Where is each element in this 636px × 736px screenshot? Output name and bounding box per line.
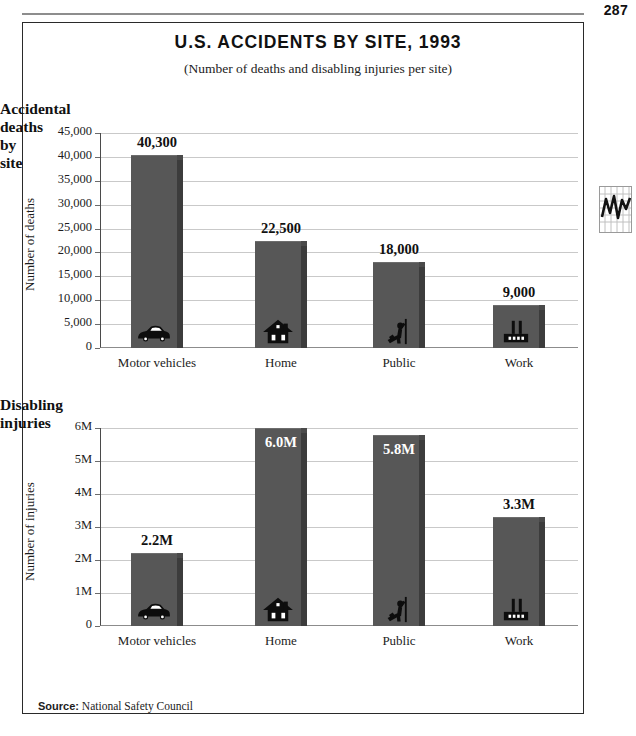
y-tick-mark bbox=[95, 428, 100, 429]
bar-top-bevel bbox=[177, 553, 183, 558]
y-axis-tick-label: 25,000 bbox=[34, 220, 92, 235]
y-axis-tick-label: 0 bbox=[34, 617, 92, 632]
y-axis-tick-label: 35,000 bbox=[34, 172, 92, 187]
bar-1-0 bbox=[131, 553, 183, 626]
figure-title: U.S. ACCIDENTS BY SITE, 1993 bbox=[0, 32, 636, 53]
bar-1-1 bbox=[255, 428, 307, 626]
y-axis-tick-label: 45,000 bbox=[34, 124, 92, 139]
bar-value-label-1-0: 2.2M bbox=[112, 532, 202, 549]
y-axis-tick-label: 30,000 bbox=[34, 196, 92, 211]
bar-value-label-0-0: 40,300 bbox=[112, 134, 202, 151]
bar-top-bevel bbox=[419, 435, 425, 440]
category-label-1-0: Motor vehicles bbox=[97, 633, 217, 649]
bar-side-shadow bbox=[419, 439, 425, 626]
gridline bbox=[101, 461, 578, 462]
bar-top-bevel bbox=[539, 517, 545, 522]
factory-icon bbox=[493, 318, 539, 346]
source-note: Source: National Safety Council bbox=[38, 700, 193, 712]
y-tick-mark bbox=[95, 205, 100, 206]
bar-1-3 bbox=[493, 517, 545, 626]
bar-value-label-0-2: 18,000 bbox=[354, 241, 444, 258]
bar-side-shadow bbox=[301, 432, 307, 626]
bar-top-bevel bbox=[539, 305, 545, 310]
bar-value-label-1-3: 3.3M bbox=[474, 496, 564, 513]
y-axis-tick-label: 6M bbox=[34, 419, 92, 434]
y-axis-tick-label: 5M bbox=[34, 452, 92, 467]
bar-top-bevel bbox=[177, 155, 183, 160]
factory-icon bbox=[493, 596, 539, 624]
category-label-0-0: Motor vehicles bbox=[97, 355, 217, 371]
bar-top-bevel bbox=[301, 428, 307, 433]
category-label-0-3: Work bbox=[459, 355, 579, 371]
category-label-0-2: Public bbox=[339, 355, 459, 371]
bar-side-shadow bbox=[539, 309, 545, 348]
bar-0-3 bbox=[493, 305, 545, 348]
y-tick-mark bbox=[95, 626, 100, 627]
bar-side-shadow bbox=[301, 245, 307, 349]
page-number: 287 bbox=[604, 2, 628, 18]
page-header-rule bbox=[22, 13, 584, 15]
y-axis-tick-label: 1M bbox=[34, 584, 92, 599]
y-tick-mark bbox=[95, 252, 100, 253]
bar-value-label-1-1: 6.0M bbox=[236, 434, 326, 451]
y-tick-mark bbox=[95, 300, 100, 301]
y-axis-tick-label: 2M bbox=[34, 551, 92, 566]
y-axis-tick-label: 4M bbox=[34, 485, 92, 500]
figure-page: 287 U.S. ACCIDENTS BY SITE, 1993 (Number… bbox=[0, 0, 636, 736]
bar-value-label-1-2: 5.8M bbox=[354, 441, 444, 458]
car-icon bbox=[131, 596, 177, 624]
y-tick-mark bbox=[95, 133, 100, 134]
bar-side-shadow bbox=[177, 557, 183, 626]
y-tick-mark bbox=[95, 560, 100, 561]
y-axis-tick-label: 10,000 bbox=[34, 291, 92, 306]
y-axis-tick-label: 40,000 bbox=[34, 148, 92, 163]
bar-0-1 bbox=[255, 241, 307, 349]
y-tick-mark bbox=[95, 593, 100, 594]
y-axis-tick-label: 5,000 bbox=[34, 315, 92, 330]
bar-1-2 bbox=[373, 435, 425, 626]
y-tick-mark bbox=[95, 527, 100, 528]
house-icon bbox=[255, 596, 301, 624]
y-tick-mark bbox=[95, 461, 100, 462]
figure-subtitle: (Number of deaths and disabling injuries… bbox=[0, 61, 636, 77]
y-axis-tick-label: 0 bbox=[34, 339, 92, 354]
bar-0-0 bbox=[131, 155, 183, 348]
y-axis-tick-label: 15,000 bbox=[34, 267, 92, 282]
category-label-1-2: Public bbox=[339, 633, 459, 649]
y-tick-mark bbox=[95, 348, 100, 349]
gridline bbox=[101, 428, 578, 429]
y-axis-tick-label: 20,000 bbox=[34, 243, 92, 258]
house-icon bbox=[255, 318, 301, 346]
person-falling-icon bbox=[373, 596, 419, 624]
source-label: Source: bbox=[38, 700, 79, 712]
category-label-1-1: Home bbox=[221, 633, 341, 649]
y-tick-mark bbox=[95, 181, 100, 182]
bar-top-bevel bbox=[419, 262, 425, 267]
y-tick-mark bbox=[95, 229, 100, 230]
bar-side-shadow bbox=[539, 521, 545, 626]
person-falling-icon bbox=[373, 318, 419, 346]
y-tick-mark bbox=[95, 494, 100, 495]
bar-value-label-0-3: 9,000 bbox=[474, 284, 564, 301]
bar-0-2 bbox=[373, 262, 425, 348]
bar-top-bevel bbox=[301, 241, 307, 246]
bar-side-shadow bbox=[419, 266, 425, 348]
source-text: National Safety Council bbox=[82, 700, 193, 712]
category-label-1-3: Work bbox=[459, 633, 579, 649]
category-label-0-1: Home bbox=[221, 355, 341, 371]
line-chart-icon bbox=[599, 186, 632, 233]
y-axis-title-1: Number of injuries bbox=[22, 482, 38, 581]
car-icon bbox=[131, 318, 177, 346]
y-axis-title-0: Number of deaths bbox=[22, 197, 38, 290]
y-tick-mark bbox=[95, 324, 100, 325]
y-axis-tick-label: 3M bbox=[34, 518, 92, 533]
bar-side-shadow bbox=[177, 159, 183, 348]
bar-value-label-0-1: 22,500 bbox=[236, 220, 326, 237]
y-tick-mark bbox=[95, 276, 100, 277]
gridline bbox=[101, 494, 578, 495]
y-tick-mark bbox=[95, 157, 100, 158]
